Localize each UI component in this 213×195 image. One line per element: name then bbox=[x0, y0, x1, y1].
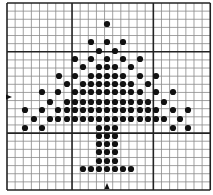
stitch-dot bbox=[120, 166, 126, 172]
stitch-dot bbox=[128, 81, 134, 87]
stitch-dot bbox=[104, 56, 110, 62]
stitch-dot bbox=[80, 89, 86, 95]
stitch-dot bbox=[72, 89, 78, 95]
stitch-dot bbox=[96, 166, 102, 172]
stitch-dot bbox=[137, 89, 143, 95]
stitch-dot bbox=[80, 99, 86, 105]
stitch-dot bbox=[128, 99, 134, 105]
stitch-dot bbox=[104, 133, 110, 139]
stitch-dot bbox=[47, 99, 53, 105]
stitch-dot bbox=[104, 166, 110, 172]
stitch-dot bbox=[88, 99, 94, 105]
stitch-dot bbox=[112, 99, 118, 105]
stitch-dot bbox=[185, 107, 191, 113]
stitch-dot bbox=[80, 166, 86, 172]
stitch-dot bbox=[96, 158, 102, 164]
stitch-dot bbox=[177, 116, 183, 122]
stitch-dot bbox=[96, 64, 102, 70]
stitch-dot bbox=[112, 116, 118, 122]
stitch-dot bbox=[96, 133, 102, 139]
stitch-dot bbox=[104, 149, 110, 155]
stitch-dot bbox=[47, 116, 53, 122]
stitch-dot bbox=[72, 99, 78, 105]
stitch-dot bbox=[96, 116, 102, 122]
stitch-dot bbox=[39, 107, 45, 113]
stitch-dot bbox=[88, 81, 94, 87]
stitch-dot bbox=[64, 116, 70, 122]
stitch-dot bbox=[120, 89, 126, 95]
stitch-dot bbox=[22, 125, 28, 131]
stitch-dot bbox=[88, 73, 94, 79]
stitch-dot bbox=[72, 116, 78, 122]
stitch-dot bbox=[104, 99, 110, 105]
stitch-dot bbox=[112, 158, 118, 164]
stitch-dot bbox=[112, 141, 118, 147]
stitch-dot bbox=[96, 149, 102, 155]
stitch-dot bbox=[88, 39, 94, 45]
stitch-dot bbox=[170, 125, 176, 131]
stitch-dot bbox=[64, 107, 70, 113]
stitch-dot bbox=[80, 81, 86, 87]
stitch-dot bbox=[72, 56, 78, 62]
stitch-dot bbox=[104, 89, 110, 95]
stitch-dot bbox=[55, 116, 61, 122]
stitch-dot bbox=[96, 141, 102, 147]
stitch-dot bbox=[96, 125, 102, 131]
stitch-dot bbox=[80, 107, 86, 113]
stitch-dot bbox=[112, 133, 118, 139]
stitch-dot bbox=[88, 89, 94, 95]
stitch-dot bbox=[112, 73, 118, 79]
stitch-dot bbox=[153, 116, 159, 122]
stitch-dot bbox=[112, 89, 118, 95]
stitch-dot bbox=[170, 89, 176, 95]
stitch-dot bbox=[39, 125, 45, 131]
stitch-dot bbox=[104, 158, 110, 164]
stitch-dot bbox=[120, 39, 126, 45]
stitch-dot bbox=[80, 64, 86, 70]
stitch-dot bbox=[112, 107, 118, 113]
stitch-dot bbox=[104, 73, 110, 79]
stitch-dot bbox=[128, 107, 134, 113]
stitch-dot bbox=[145, 99, 151, 105]
stitch-dot bbox=[88, 116, 94, 122]
stitch-dot bbox=[153, 89, 159, 95]
stitch-dot bbox=[104, 39, 110, 45]
stitch-dot bbox=[128, 116, 134, 122]
stitch-dot bbox=[120, 56, 126, 62]
stitch-dot bbox=[88, 166, 94, 172]
stitch-dot bbox=[137, 99, 143, 105]
stitch-dot bbox=[39, 89, 45, 95]
stitch-dot bbox=[153, 73, 159, 79]
stitch-dot bbox=[137, 73, 143, 79]
stitch-dot bbox=[120, 116, 126, 122]
stitch-dot bbox=[96, 81, 102, 87]
stitch-dot bbox=[96, 48, 102, 54]
stitch-dot bbox=[96, 73, 102, 79]
stitch-dot bbox=[104, 141, 110, 147]
stitch-dot bbox=[96, 89, 102, 95]
stitch-dot bbox=[88, 56, 94, 62]
stitch-dot bbox=[161, 99, 167, 105]
stitch-dot bbox=[120, 107, 126, 113]
stitch-chart-grid bbox=[0, 0, 213, 195]
stitch-dot bbox=[104, 116, 110, 122]
stitch-dot bbox=[161, 116, 167, 122]
stitch-dot bbox=[104, 81, 110, 87]
stitch-dot bbox=[137, 116, 143, 122]
stitch-dot bbox=[104, 125, 110, 131]
stitch-dot bbox=[72, 107, 78, 113]
stitch-dot bbox=[72, 73, 78, 79]
stitch-dot bbox=[55, 89, 61, 95]
stitch-dot bbox=[56, 73, 62, 79]
stitch-dot bbox=[104, 107, 110, 113]
stitch-dot bbox=[128, 89, 134, 95]
stitch-dot bbox=[104, 64, 110, 70]
stitch-dot bbox=[185, 125, 191, 131]
stitch-dot bbox=[80, 116, 86, 122]
stitch-dot bbox=[153, 107, 159, 113]
stitch-dot bbox=[128, 64, 134, 70]
stitch-dot bbox=[96, 107, 102, 113]
stitch-dot bbox=[112, 149, 118, 155]
stitch-dot bbox=[104, 21, 110, 27]
stitch-dot bbox=[112, 48, 118, 54]
